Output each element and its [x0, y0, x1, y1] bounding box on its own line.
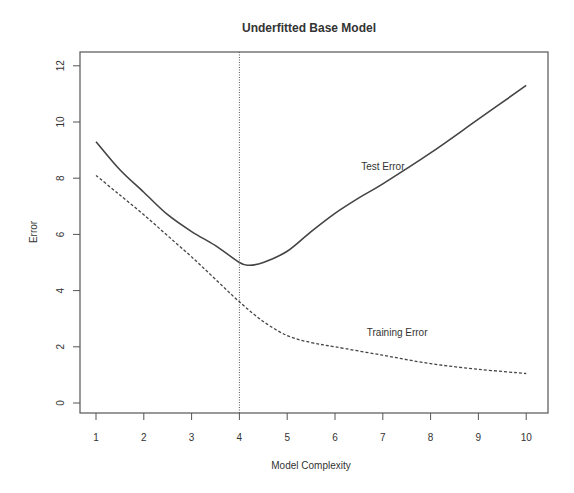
y-tick-label: 8	[55, 175, 66, 181]
y-tick-label: 2	[55, 344, 66, 350]
x-tick-label: 3	[189, 432, 195, 443]
y-tick-label: 12	[55, 60, 66, 72]
y-tick-label: 4	[55, 287, 66, 293]
x-tick-label: 1	[93, 432, 99, 443]
x-tick-label: 2	[141, 432, 147, 443]
training-error-line	[96, 175, 526, 373]
test-error-annotation: Test Error	[361, 161, 405, 172]
x-tick-label: 10	[521, 432, 533, 443]
chart-title: Underfitted Base Model	[242, 21, 376, 35]
training-error-annotation: Training Error	[367, 327, 428, 338]
y-axis: 024681012	[55, 60, 80, 406]
y-tick-label: 0	[55, 400, 66, 406]
plot-frame	[80, 52, 548, 413]
y-tick-label: 10	[55, 116, 66, 128]
x-tick-label: 7	[380, 432, 386, 443]
x-tick-label: 6	[332, 432, 338, 443]
y-axis-label: Error	[28, 220, 39, 243]
x-tick-label: 5	[284, 432, 290, 443]
y-tick-label: 6	[55, 231, 66, 237]
x-tick-label: 4	[237, 432, 243, 443]
x-tick-label: 9	[476, 432, 482, 443]
test-error-line	[96, 85, 526, 265]
x-tick-label: 8	[428, 432, 434, 443]
x-axis-label: Model Complexity	[271, 460, 350, 471]
chart-canvas: Underfitted Base Model 12345678910 02468…	[0, 0, 574, 493]
x-axis: 12345678910	[93, 413, 532, 443]
